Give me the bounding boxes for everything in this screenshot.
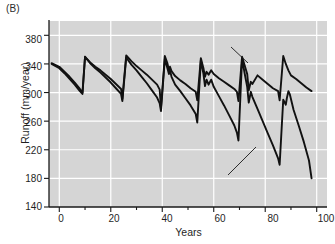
- annotation-leader-lines: [228, 47, 256, 175]
- y-tick-label-180: 180: [8, 173, 42, 184]
- annotation-native-line-1: Predicted runoff from: [141, 28, 227, 39]
- y-tick-label-340: 340: [8, 61, 42, 72]
- x-tick-label-20: 20: [99, 213, 129, 224]
- panel-label: (B): [6, 3, 20, 14]
- y-tick-label-300: 300: [8, 89, 42, 100]
- annotation-invasive-line-2: vegetation dominated by: [135, 171, 235, 182]
- x-tick-label-40: 40: [152, 213, 182, 224]
- leader-native: [231, 47, 248, 63]
- y-tick-label-220: 220: [8, 145, 42, 156]
- x-tick-label-0: 0: [46, 213, 76, 224]
- annotation-invasive-line-1: Predicted runoff from: [135, 160, 235, 171]
- series-line-native: [52, 55, 312, 108]
- annotation-invasive-line-3: invasive exotic species: [135, 181, 235, 192]
- x-tick-label-80: 80: [258, 213, 288, 224]
- figure-panel-b: (B) Runoff (mm/year) Years 380 340 300 2…: [0, 0, 335, 244]
- y-tick-label-140: 140: [8, 201, 42, 212]
- y-tick-label-260: 260: [8, 117, 42, 128]
- x-axis-label: Years: [49, 226, 328, 238]
- y-tick-label-380: 380: [8, 34, 42, 45]
- x-tick-label-100: 100: [311, 213, 335, 224]
- x-tick-label-60: 60: [205, 213, 235, 224]
- annotation-native-line-2: native vegetation: [141, 39, 227, 50]
- annotation-invasive-species: Predicted runoff from vegetation dominat…: [135, 160, 235, 192]
- annotation-native-vegetation: Predicted runoff from native vegetation: [141, 28, 227, 49]
